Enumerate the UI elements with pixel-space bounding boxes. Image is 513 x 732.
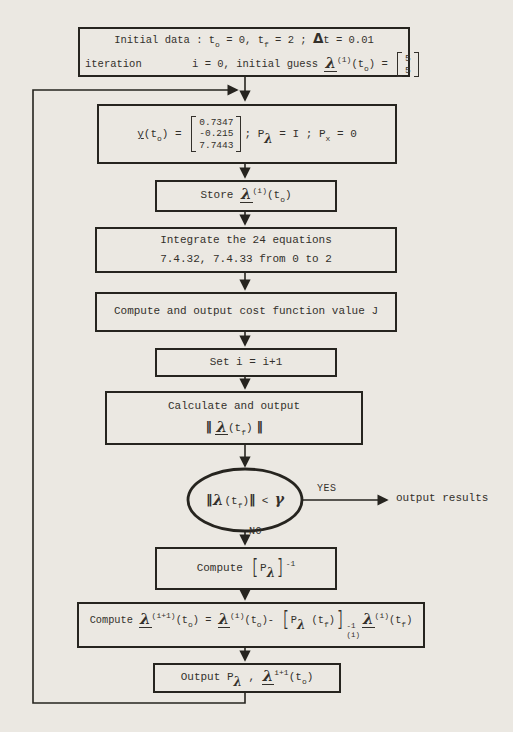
compute-p-inverse-formula: Compute [Pλ]-1 [197, 558, 296, 579]
store-lambda-formula: Store λ(i)(to) [200, 185, 291, 207]
cost-function-box: Compute and output cost function value J [95, 292, 397, 332]
cost-function-label: Compute and output cost function value J [114, 303, 378, 321]
calculate-norm-box: Calculate and output ‖ λ(tf) ‖ [105, 391, 363, 445]
output-box: Output Pλ , λi+1(to) [153, 663, 341, 693]
integrate-line2: 7.4.32, 7.4.33 from 0 to 2 [160, 250, 332, 269]
initial-data-box: Initial data : to = 0, tf = 2 ; Δt = 0.0… [78, 27, 410, 77]
initial-data-line2: iteration i = 0, initial guess λ(1)(to) … [85, 52, 403, 76]
integrate-line1: Integrate the 24 equations [160, 231, 332, 250]
increment-iteration-label: Set i = i+1 [210, 354, 283, 372]
initial-data-line1: Initial data : to = 0, tf = 2 ; Δt = 0.0… [85, 27, 403, 52]
no-branch-label: NO [249, 526, 262, 537]
calculate-norm-line1: Calculate and output [168, 397, 300, 416]
integrate-equations-box: Integrate the 24 equations 7.4.32, 7.4.3… [95, 227, 397, 273]
flowchart-page: Initial data : to = 0, tf = 2 ; Δt = 0.0… [0, 0, 513, 732]
newton-update-box: Compute λ(i+1)(to) = λ(i)(to)- [Pλ (tf)]… [77, 602, 425, 648]
increment-iteration-box: Set i = i+1 [155, 348, 337, 377]
compute-p-inverse-box: Compute [Pλ]-1 [155, 547, 337, 590]
output-formula: Output Pλ , λi+1(to) [181, 667, 314, 689]
newton-update-formula: Compute λ(i+1)(to) = λ(i)(to)- [Pλ (tf)]… [90, 610, 413, 639]
decision-condition: ‖λ(tf)‖ < γ [190, 472, 300, 528]
initial-state-box: y(to) = 0.7347-0.2157.7443; Pλ = I ; Px … [97, 104, 397, 164]
yes-branch-label: YES [317, 483, 337, 494]
store-lambda-box: Store λ(i)(to) [155, 180, 337, 212]
output-results-label: output results [396, 492, 488, 504]
initial-state-formula: y(to) = 0.7347-0.2157.7443; Pλ = I ; Px … [137, 116, 357, 152]
decision-formula: ‖λ(tf)‖ < γ [206, 491, 284, 510]
calculate-norm-formula: ‖ λ(tf) ‖ [205, 416, 262, 440]
